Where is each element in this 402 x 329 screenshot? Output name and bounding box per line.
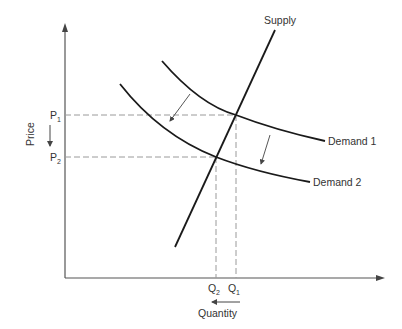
q2-subscript: 2 (216, 289, 220, 296)
p1-subscript: 1 (57, 116, 61, 123)
demand1-label: Demand 1 (328, 135, 377, 147)
shift-arrow-left-icon (170, 94, 190, 121)
guide-lines (65, 115, 236, 278)
p2-subscript: 2 (57, 158, 61, 165)
axes (62, 23, 385, 281)
supply-curve (175, 30, 275, 247)
supply-label: Supply (264, 14, 297, 26)
curves (120, 30, 325, 247)
x-axis-label: Quantity (198, 307, 238, 319)
shift-arrows (170, 94, 270, 164)
y-axis-label: Price (24, 122, 36, 146)
p2-label: P (50, 151, 57, 163)
q1-subscript: 1 (236, 289, 240, 296)
shift-arrow-right-icon (261, 135, 270, 164)
demand2-label: Demand 2 (313, 176, 362, 188)
demand1-curve (162, 61, 325, 141)
x-axis-arrow-icon (376, 275, 385, 281)
supply-demand-diagram: Supply Demand 1 Demand 2 P 1 P 2 Q 2 Q 1… (0, 0, 402, 329)
demand2-curve (120, 84, 310, 182)
y-axis-arrow-icon (62, 23, 68, 32)
q2-label: Q (208, 282, 216, 294)
p1-label: P (50, 109, 57, 121)
q1-label: Q (228, 282, 236, 294)
